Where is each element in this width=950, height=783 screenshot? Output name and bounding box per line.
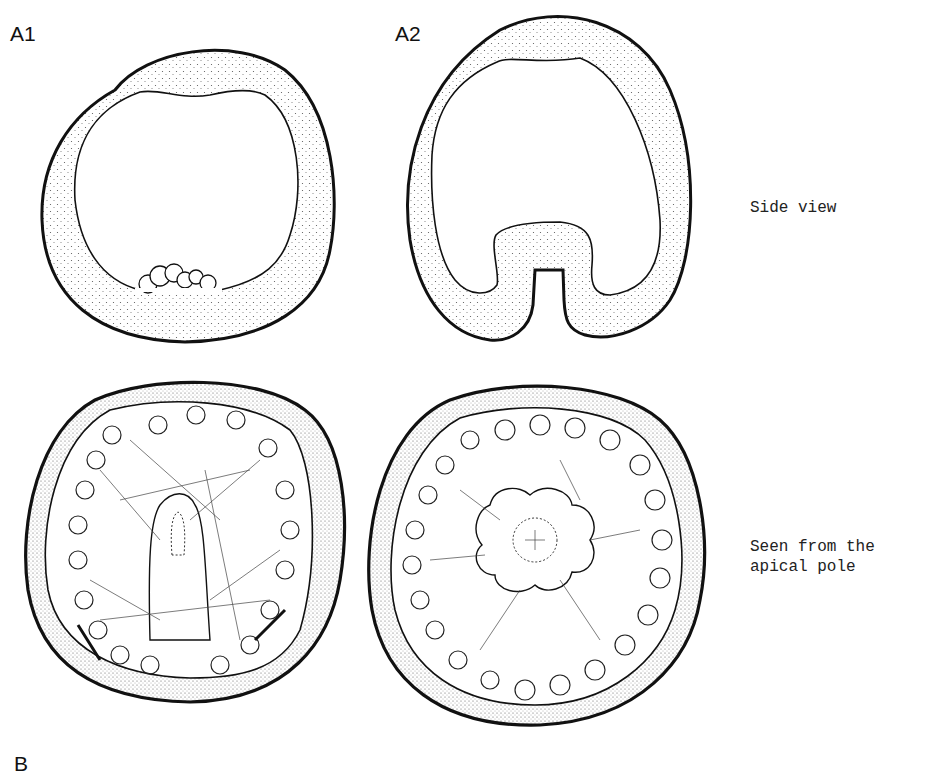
a2-apical-view-drawing	[369, 386, 705, 725]
figure: A1 A2 B Side view Seen from the apical p…	[0, 0, 950, 783]
panel-label-b: B	[14, 752, 28, 776]
caption-side-view: Side view	[750, 198, 836, 218]
panel-label-a1: A1	[10, 22, 36, 46]
panel-label-a2: A2	[395, 22, 421, 46]
embryo-drawings	[0, 0, 950, 783]
caption-apical-line2: apical pole	[750, 557, 856, 577]
a1-side-view-drawing	[42, 50, 334, 342]
a1-apical-view-drawing	[26, 382, 345, 702]
a2-side-view-drawing	[408, 17, 691, 341]
caption-apical-line1: Seen from the	[750, 537, 875, 557]
